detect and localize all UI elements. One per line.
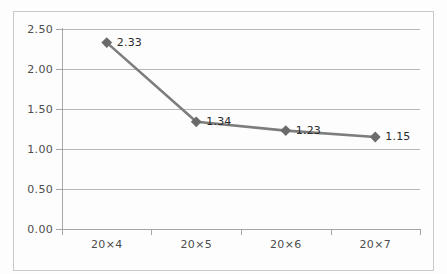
y-axis-tick-label: 2.50: [18, 23, 53, 36]
x-axis-tick-label: 20×5: [181, 238, 212, 251]
gridline: [62, 109, 420, 110]
x-axis-tick: [331, 229, 332, 235]
gridline: [62, 69, 420, 70]
gridline: [62, 189, 420, 190]
y-axis-line: [62, 28, 63, 230]
y-axis-tick-label: 1.00: [18, 143, 53, 156]
gridline: [62, 149, 420, 150]
x-axis-tick-label: 20×7: [360, 238, 391, 251]
y-axis-tick-label: 0.00: [18, 223, 53, 236]
y-axis-tick-label: 2.00: [18, 63, 53, 76]
x-axis-tick: [420, 229, 421, 235]
x-axis-tick: [241, 229, 242, 235]
plot-area: [62, 29, 420, 229]
data-point-label: 1.15: [385, 130, 410, 143]
x-axis-tick: [151, 229, 152, 235]
chart-container: 2.50 2.00 1.50 1.00 0.50 0.00 20×4 20×5 …: [0, 0, 447, 274]
x-axis-tick-label: 20×6: [270, 238, 301, 251]
x-axis-tick-label: 20×4: [91, 238, 122, 251]
data-point-label: 2.33: [117, 36, 142, 49]
x-axis-tick: [62, 229, 63, 235]
gridline: [62, 29, 420, 30]
data-point-label: 1.23: [296, 124, 321, 137]
y-axis-tick-label: 1.50: [18, 103, 53, 116]
data-point-label: 1.34: [206, 115, 231, 128]
y-axis-tick-label: 0.50: [18, 183, 53, 196]
